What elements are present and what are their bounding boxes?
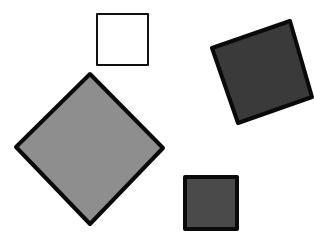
small-dark-square: Small dark gray square <box>185 177 237 229</box>
diagram-canvas: Squares of different shades and orientat… <box>0 0 314 247</box>
dark-tilted-square: Dark gray tilted square <box>212 21 312 123</box>
gray-diamond: Medium gray diamond <box>16 74 163 224</box>
shapes-svg: White square Dark gray tilted square Med… <box>0 0 314 247</box>
white-square: White square <box>97 14 148 65</box>
